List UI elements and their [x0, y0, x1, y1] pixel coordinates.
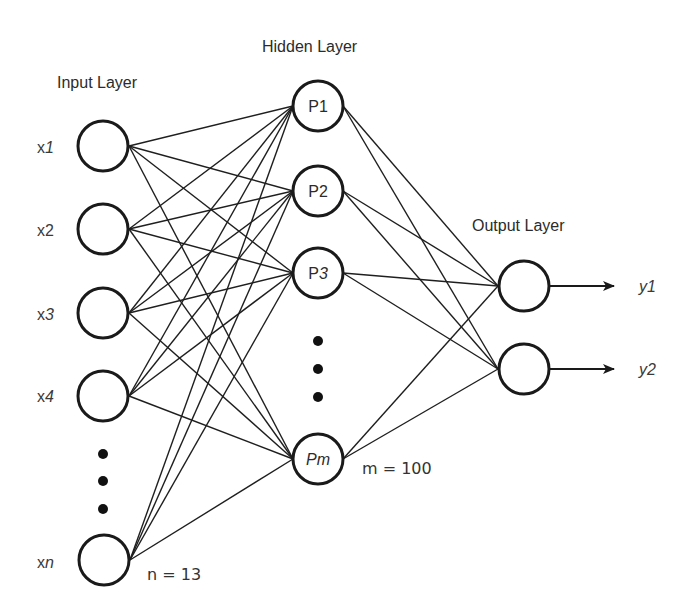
hidden-label-p1: P1 [308, 98, 328, 115]
input-node-x3 [78, 288, 128, 338]
output-node-y2 [499, 344, 549, 394]
hidden-label-p3: P3 [308, 265, 328, 282]
hidden-size-label: m = 100 [362, 459, 432, 478]
hidden-label-pm: Pm [306, 451, 330, 468]
input-hidden-edges [129, 106, 293, 560]
input-node-x2 [78, 204, 128, 254]
input-size-label: n = 13 [147, 565, 201, 584]
input-node-xn [79, 535, 129, 585]
output-layer: y1 y2 [499, 261, 656, 394]
neural-network-diagram: Input Layer Hidden Layer Output Layer [0, 0, 693, 613]
input-label-x4: x4 [37, 388, 54, 405]
output-label-y1: y1 [638, 278, 656, 295]
input-label-x1: x1 [37, 139, 54, 156]
hidden-layer: P1 P2 P3 Pm m = 100 [293, 81, 432, 484]
hidden-label-p2: P2 [308, 183, 328, 200]
hidden-layer-title: Hidden Layer [262, 38, 358, 55]
input-label-x2: x2 [37, 222, 54, 239]
output-node-y1 [499, 261, 549, 311]
input-node-x1 [78, 121, 128, 171]
input-label-x3: x3 [37, 306, 54, 323]
input-layer: x1 x2 x3 x4 xn n = 13 [37, 121, 201, 585]
input-layer-title: Input Layer [57, 74, 138, 91]
input-node-x4 [78, 371, 128, 421]
output-layer-title: Output Layer [472, 217, 565, 234]
input-label-xn: xn [37, 554, 54, 571]
input-ellipsis-icon [98, 449, 108, 514]
hidden-output-edges [343, 106, 498, 459]
hidden-ellipsis-icon [313, 336, 323, 402]
output-label-y2: y2 [638, 361, 656, 378]
